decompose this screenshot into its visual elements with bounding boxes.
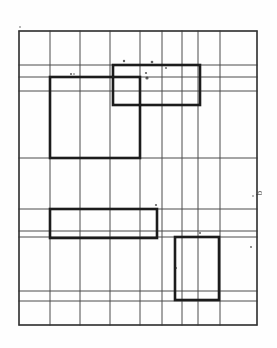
scan-speck-5 [165,67,167,69]
scan-speck-10 [199,232,201,234]
figure-page: b [0,0,277,348]
scan-speck-7 [155,204,157,206]
scan-speck-8 [175,267,177,269]
scan-speck-9 [250,246,252,248]
paper-background [0,0,277,348]
scan-speck-2 [145,76,148,79]
scan-speck-12 [252,195,254,197]
scan-speck-4 [73,73,75,75]
grid-drawing-canvas [0,0,277,348]
scan-speck-3 [70,73,72,75]
scan-speck-11 [19,26,21,28]
scan-speck-0 [151,61,154,64]
margin-figure-label: b [254,191,264,196]
scan-speck-1 [145,72,147,74]
grid-drawing-figure [0,0,277,348]
scan-speck-6 [123,60,125,62]
